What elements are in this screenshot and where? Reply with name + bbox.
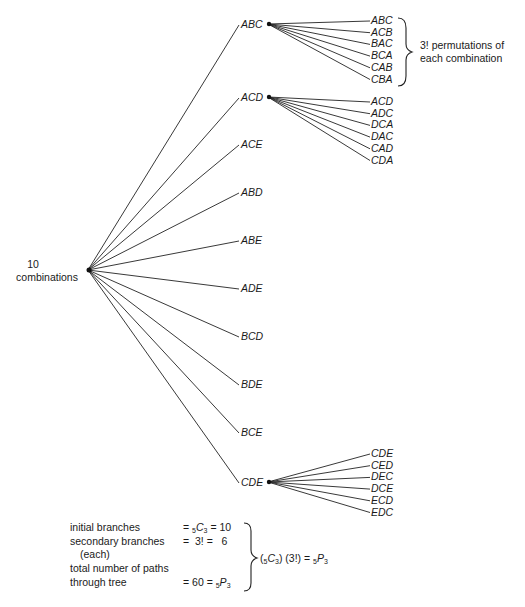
branch-line: [88, 270, 239, 385]
summary-secondary-expr: = 3! = 6: [183, 535, 228, 547]
branch-node: [267, 480, 271, 484]
combination-abe: ABE: [240, 234, 263, 246]
permutation-dac: DAC: [371, 130, 394, 142]
combination-bde: BDE: [241, 378, 264, 390]
summary-total-label: total number of paths: [70, 562, 169, 574]
permutation-branch-line: [268, 482, 370, 501]
permutation-ced: CED: [371, 459, 394, 471]
permutation-abc: ABC: [370, 14, 393, 26]
branch-line: [88, 145, 239, 270]
summary-initial-expr: = 5C3 = 10: [183, 521, 231, 534]
branch-line: [88, 25, 239, 270]
permutation-dce: DCE: [371, 482, 394, 494]
permutation-dca: DCA: [371, 118, 393, 130]
permutation-tree-diagram: ABCABCACBBACBCACABCBAACDACDADCDCADACCADC…: [0, 0, 525, 607]
branch-line: [88, 98, 239, 270]
tree-labels: ABCABCACBBACBCACABCBAACDACDADCDCADACCADC…: [240, 14, 394, 518]
combination-abd: ABD: [240, 186, 263, 198]
root-label-count: 10: [27, 258, 39, 270]
combination-bcd: BCD: [241, 330, 264, 342]
permutation-cad: CAD: [371, 142, 394, 154]
summary-secondary-label: secondary branches: [70, 535, 165, 547]
summary-through-expr: = 60 = 5P3: [183, 576, 231, 589]
branch-node: [267, 95, 271, 99]
branch-line: [88, 193, 239, 270]
permutation-cde: CDE: [371, 447, 394, 459]
branch-line: [88, 241, 239, 270]
permutation-bca: BCA: [371, 49, 393, 61]
root-node: [87, 268, 92, 273]
permutation-acd: ACD: [370, 95, 394, 107]
permutations-brace: [398, 18, 412, 86]
permutation-branch-line: [268, 24, 370, 68]
combination-ade: ADE: [240, 282, 264, 294]
permutation-acb: ACB: [370, 26, 393, 38]
summary-each-label: (each): [80, 548, 110, 560]
permutation-cba: CBA: [371, 73, 393, 85]
combination-ace: ACE: [240, 138, 264, 150]
summary-block: initial branches = 5C3 = 10 secondary br…: [70, 521, 328, 591]
permutation-ecd: ECD: [371, 494, 394, 506]
combination-bce: BCE: [241, 426, 264, 438]
summary-through-label: through tree: [70, 576, 127, 588]
summary-brace: [244, 523, 257, 591]
root-label-text: combinations: [16, 271, 78, 283]
branch-line: [88, 270, 239, 289]
combination-acd: ACD: [240, 91, 264, 103]
permutation-cab: CAB: [371, 61, 393, 73]
permutation-branch-line: [268, 24, 370, 44]
permutation-edc: EDC: [371, 506, 394, 518]
summary-initial-label: initial branches: [70, 521, 140, 533]
permutation-branch-line: [268, 21, 370, 24]
summary-result: (5C3) (3!) = 5P3: [260, 552, 328, 565]
permutation-dec: DEC: [371, 470, 394, 482]
combination-cde: CDE: [241, 476, 264, 488]
permutation-branch-line: [268, 97, 370, 161]
branch-line: [88, 270, 239, 433]
permutation-cda: CDA: [371, 154, 393, 166]
brace-note-line1: 3! permutations of: [420, 39, 504, 51]
branch-line: [88, 270, 239, 483]
permutation-branch-line: [268, 97, 370, 149]
brace-note-line2: each combination: [420, 52, 502, 64]
permutation-bac: BAC: [371, 37, 393, 49]
permutation-branch-line: [268, 482, 370, 489]
permutation-adc: ADC: [370, 107, 394, 119]
permutation-branch-line: [268, 482, 370, 513]
tree-branches: [87, 21, 371, 513]
permutation-branch-line: [268, 97, 370, 137]
branch-node: [267, 22, 271, 26]
combination-abc: ABC: [240, 18, 263, 30]
